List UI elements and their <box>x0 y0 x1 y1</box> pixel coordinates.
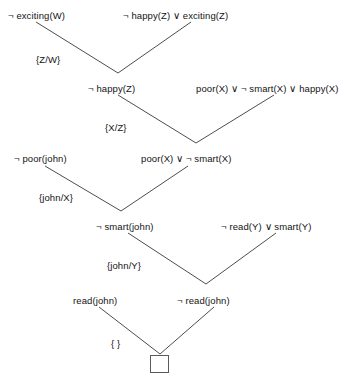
clause-node-not-smart-john: ¬ smart(john) <box>96 221 154 233</box>
clause-node-poor-x-or-not-smart-x-or-happy-x: poor(X) ∨ ¬ smart(X) ∨ happy(X) <box>196 83 338 95</box>
edge-c5-to-c7 <box>45 166 121 211</box>
edge-c3-to-c6 <box>118 95 196 143</box>
edge-c8-to-c10 <box>206 233 276 284</box>
clause-node-not-exciting-w: ¬ exciting(W) <box>8 10 65 22</box>
empty-clause-box <box>150 355 169 373</box>
edge-c2-to-c3 <box>118 22 191 73</box>
clause-node-not-happy-z: ¬ happy(Z) <box>88 83 135 95</box>
substitution-label-empty: { } <box>111 338 120 350</box>
edge-c6-to-c7 <box>121 166 188 211</box>
edge-c4-to-c6 <box>196 95 274 143</box>
clause-node-not-read-y-or-smart-y: ¬ read(Y) ∨ smart(Y) <box>221 221 312 233</box>
clause-node-not-happy-z-or-exciting-z: ¬ happy(Z) ∨ exciting(Z) <box>123 10 228 22</box>
clause-node-read-john: read(john) <box>73 295 117 307</box>
edge-c10-to-empty <box>160 307 214 354</box>
substitution-label-john-x: {john/X} <box>39 192 73 204</box>
clause-node-not-poor-john: ¬ poor(john) <box>14 153 67 165</box>
edge-c7-to-c10 <box>128 233 206 284</box>
substitution-label-john-y: {john/Y} <box>107 260 141 272</box>
resolution-proof-tree: ¬ exciting(W) ¬ happy(Z) ∨ exciting(Z) ¬… <box>0 0 358 383</box>
clause-node-not-read-john: ¬ read(john) <box>177 295 230 307</box>
edge-c9-to-empty <box>99 307 160 354</box>
substitution-label-z-w: {Z/W} <box>36 54 60 66</box>
clause-node-poor-x-or-not-smart-x: poor(X) ∨ ¬ smart(X) <box>141 153 232 165</box>
substitution-label-x-z: {X/Z} <box>105 122 127 134</box>
